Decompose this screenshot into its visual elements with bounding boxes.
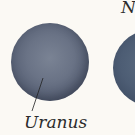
neptune-label-partial: N (121, 0, 135, 17)
uranus-label: Uranus (24, 112, 87, 132)
